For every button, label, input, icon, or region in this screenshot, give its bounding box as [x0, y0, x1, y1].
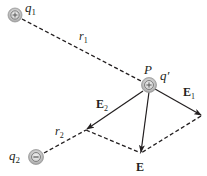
parallelogram-edge-e2-to-e [86, 130, 141, 153]
q-prime-label: q′ [160, 68, 170, 83]
e-net-label: E [136, 160, 144, 174]
q1-label: q1 [25, 0, 36, 17]
r2-distance-line [44, 130, 86, 153]
charge-q1 [8, 8, 22, 22]
e1-label: E1 [183, 85, 195, 101]
point-p-label: P [143, 62, 152, 77]
e-net-vector-arrow [141, 92, 149, 152]
q2-label: q2 [9, 148, 20, 165]
r2-label: r2 [55, 124, 64, 140]
r1-label: r1 [79, 29, 88, 45]
electric-field-diagram: q1 q2 P q′ r1 r2 E1 E2 E [0, 0, 207, 176]
test-charge-q-prime [142, 78, 157, 93]
e2-label: E2 [96, 97, 108, 113]
charge-q2 [29, 150, 44, 165]
parallelogram-edge-e1-to-e [141, 116, 201, 153]
